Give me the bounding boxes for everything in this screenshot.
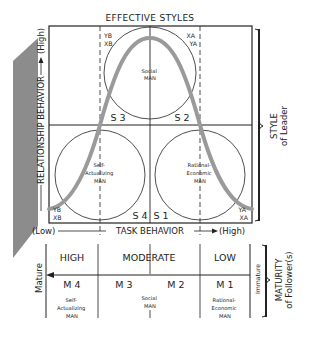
codes-bottom-left: YB XB	[52, 206, 63, 221]
svg-text:of Follower(s): of Follower(s)	[284, 251, 294, 308]
maturity-brace-label: MATURITY of Follower(s)	[274, 251, 294, 308]
x-axis-label: TASK BEHAVIOR	[115, 226, 184, 236]
svg-text:of Leader: of Leader	[279, 105, 289, 146]
style-label: STYLE of Leader	[269, 105, 289, 146]
mature-label: Mature	[34, 263, 44, 293]
maturity-level-low: LOW	[214, 252, 236, 263]
maturity-code-m1: M 1	[216, 279, 233, 290]
x-axis-arrow-icon	[212, 229, 218, 234]
quadrant-s4: S 4	[132, 210, 147, 221]
x-axis-low: (Low)	[32, 226, 55, 236]
maturity-man-m1: Rational- Economic MAN	[212, 297, 239, 319]
maturity-code-m2: M 2	[167, 279, 184, 290]
maturity-arrow-icon	[46, 272, 54, 278]
codes-top-left: YB XB	[103, 32, 114, 47]
maturity-man-m4: Self- Actualizing MAN	[57, 297, 87, 319]
maturity-code-m4: M 4	[63, 279, 80, 290]
svg-text:MATURITY: MATURITY	[274, 258, 284, 302]
circle-bottom-left-label: Self- Actualizing MAN	[85, 162, 115, 184]
svg-text:STYLE: STYLE	[269, 113, 279, 139]
svg-text:Immature: Immature	[254, 264, 261, 294]
circle-top-label: Social MAN	[141, 68, 158, 81]
title: EFFECTIVE STYLES	[106, 13, 195, 23]
svg-text:Mature: Mature	[34, 263, 44, 293]
effective-style-curve	[49, 38, 252, 209]
y-axis-arrow-icon	[39, 57, 44, 63]
immature-label: Immature	[254, 264, 261, 294]
codes-bottom-right: YA XA	[238, 206, 249, 221]
maturity-man-social: Social MAN	[141, 295, 158, 309]
maturity-code-m3: M 3	[115, 279, 132, 290]
quadrant-s1: S 1	[153, 210, 168, 221]
codes-top-right: XA YA	[187, 32, 198, 47]
circle-bottom-right-label: Rational- Economic MAN	[187, 162, 214, 184]
x-axis-high: (High)	[219, 226, 245, 236]
quadrant-s3: S 3	[110, 112, 125, 123]
quadrant-s2: S 2	[174, 112, 189, 123]
maturity-level-high: HIGH	[60, 252, 84, 263]
y-axis-label: RELATIONSHIP BEHAVIOR	[36, 76, 46, 184]
maturity-level-moderate: MODERATE	[123, 252, 176, 263]
relationship-shade	[13, 38, 38, 258]
leadership-diagram: EFFECTIVE STYLES Social MAN Self- Actual…	[0, 0, 317, 356]
y-axis-high: (High)	[36, 28, 46, 54]
